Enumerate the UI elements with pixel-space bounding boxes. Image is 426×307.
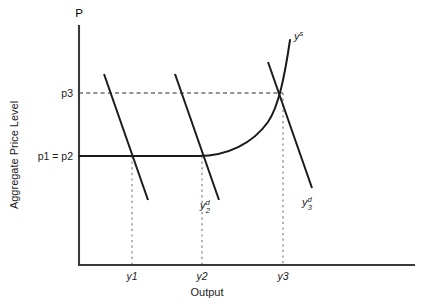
x-axis-label: Output: [190, 286, 223, 298]
output-tick-label-y2: y2: [195, 270, 207, 282]
aggregate-supply-curve: [79, 40, 290, 156]
as-ad-chart: P Aggregate Price Level Output p3 p1 = p…: [0, 0, 426, 307]
output-tick-label-y3: y3: [276, 270, 288, 282]
price-label-p3: p3: [61, 87, 73, 99]
y-axis-title: P: [75, 7, 83, 19]
guide-lines: [79, 93, 283, 265]
diagram-container: P Aggregate Price Level Output p3 p1 = p…: [0, 0, 426, 307]
demand2-curve-label: yd2: [199, 198, 211, 215]
output-tick-label-y1: y1: [125, 270, 137, 282]
demand3-curve-label: yd3: [301, 195, 313, 212]
supply-label-superscript: s: [300, 29, 304, 38]
demand2-label-subscript: 2: [205, 206, 211, 215]
supply-curve-label: ys: [293, 29, 304, 42]
y-axis-label: Aggregate Price Level: [8, 101, 20, 209]
price-label-p1-p2: p1 = p2: [38, 150, 73, 162]
demand3-label-subscript: 3: [308, 203, 313, 212]
aggregate-demand-curve-3: [268, 62, 312, 188]
